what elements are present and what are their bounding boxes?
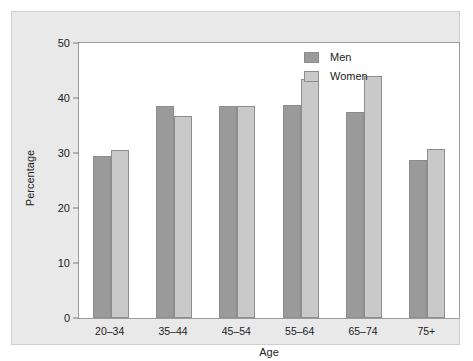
bar-women-2 <box>237 106 255 318</box>
y-axis-tick-mark <box>73 98 79 99</box>
y-axis-tick-label: 30 <box>58 147 70 159</box>
bar-men-5 <box>409 160 427 318</box>
y-axis-tick-label: 50 <box>58 37 70 49</box>
bar-women-1 <box>174 116 192 318</box>
y-axis-tick-mark <box>73 263 79 264</box>
y-axis-tick-label: 10 <box>58 257 70 269</box>
x-axis-tick-label: 55–64 <box>285 325 314 337</box>
y-axis-tick-mark <box>73 153 79 154</box>
y-axis-tick-mark <box>73 318 79 319</box>
bar-women-3 <box>301 79 319 318</box>
legend-label: Men <box>330 52 351 63</box>
bar-women-0 <box>111 150 129 318</box>
x-axis-label: Age <box>78 346 460 358</box>
bar-men-0 <box>93 156 111 318</box>
x-axis-tick-label: 75+ <box>417 325 435 337</box>
legend-swatch-women <box>304 71 319 82</box>
bar-women-4 <box>364 76 382 318</box>
y-axis-tick-label: 0 <box>64 312 70 324</box>
bar-men-3 <box>283 105 301 318</box>
chart-figure: Percentage 01020304050 Age MenWomen 20–3… <box>0 0 473 361</box>
legend-item-women: Women <box>304 67 400 86</box>
y-axis-tick-label: 20 <box>58 202 70 214</box>
y-axis-label: Percentage <box>24 150 36 206</box>
chart-legend: MenWomen <box>304 48 400 86</box>
plot-area: 01020304050 <box>78 42 460 319</box>
bar-men-2 <box>219 106 237 318</box>
x-axis-tick-label: 65–74 <box>348 325 377 337</box>
y-axis-tick-mark <box>73 208 79 209</box>
legend-item-men: Men <box>304 48 400 67</box>
bar-men-4 <box>346 112 364 318</box>
x-axis-tick-label: 45–54 <box>222 325 251 337</box>
legend-swatch-men <box>304 52 319 63</box>
y-axis-tick-label: 40 <box>58 92 70 104</box>
x-axis-tick-label: 20–34 <box>95 325 124 337</box>
x-axis-tick-label: 35–44 <box>158 325 187 337</box>
bar-men-1 <box>156 106 174 318</box>
plot-inner: 01020304050 <box>79 43 459 318</box>
bar-women-5 <box>427 149 445 318</box>
figure-panel: Percentage 01020304050 Age MenWomen 20–3… <box>11 11 460 345</box>
y-axis-tick-mark <box>73 43 79 44</box>
legend-label: Women <box>330 71 368 82</box>
